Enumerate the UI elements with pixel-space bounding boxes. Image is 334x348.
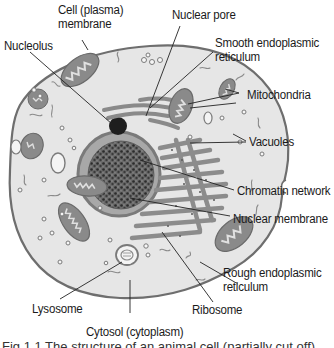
label-mitochondria: Mitochondria	[247, 88, 311, 102]
cell-diagram: Cell (plasma) membrane Nuclear pore Nucl…	[0, 0, 334, 348]
label-line: Nuclear pore	[172, 8, 236, 22]
label-line: Rough endoplasmic	[223, 266, 322, 280]
label-line: Lysosome	[32, 302, 83, 316]
leader-cell-membrane	[82, 40, 88, 50]
label-line: Nuclear membrane	[233, 212, 328, 226]
label-smooth-er: Smooth endoplasmic reticulum	[215, 36, 319, 64]
label-chromatin-network: Chromatin network	[237, 184, 330, 198]
label-nuclear-pore: Nuclear pore	[172, 8, 236, 22]
label-line: Vacuoles	[249, 135, 294, 149]
lysosome-shape	[116, 245, 138, 265]
label-cytosol: Cytosol (cytoplasm)	[86, 325, 183, 339]
label-line: Mitochondria	[247, 88, 311, 102]
label-line: Ribosome	[192, 303, 242, 317]
nucleolus-shape	[109, 117, 127, 135]
label-line: Nucleolus	[4, 39, 53, 53]
label-line: reticulum	[223, 280, 322, 294]
label-line: Cytosol (cytoplasm)	[86, 325, 183, 339]
label-ribosome: Ribosome	[192, 303, 242, 317]
label-line: reticulum	[215, 50, 319, 64]
label-nucleolus: Nucleolus	[4, 39, 53, 53]
label-line: Smooth endoplasmic	[215, 36, 319, 50]
caption-text: Fig 1.1 The structure of an animal cell …	[0, 340, 334, 348]
label-line: Cell (plasma)	[58, 3, 123, 17]
label-line: membrane	[58, 17, 123, 31]
label-vacuoles: Vacuoles	[249, 135, 294, 149]
label-rough-er: Rough endoplasmic reticulum	[223, 266, 322, 294]
label-cell-membrane: Cell (plasma) membrane	[58, 3, 123, 31]
figure-caption: Fig 1.1 The structure of an animal cell …	[0, 340, 334, 348]
label-lysosome: Lysosome	[32, 302, 83, 316]
label-nuclear-membrane: Nuclear membrane	[233, 212, 328, 226]
label-line: Chromatin network	[237, 184, 330, 198]
